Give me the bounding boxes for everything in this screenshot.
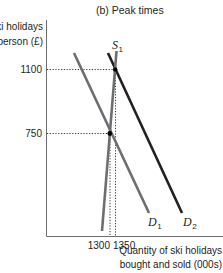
label-d1: D1 bbox=[147, 215, 162, 231]
label-d2: D2 bbox=[182, 215, 197, 231]
x-axis-label: Quantity of ski holidays bought and sold… bbox=[119, 244, 222, 272]
x-axis-label-line-1: Quantity of ski holidays bbox=[119, 244, 222, 258]
equilibrium-point-1100 bbox=[113, 67, 117, 71]
x-axis-label-line-2: bought and sold (000s) bbox=[119, 258, 222, 272]
y-tick-750: 750 bbox=[25, 128, 42, 139]
y-tick-1100: 1100 bbox=[20, 64, 42, 75]
demand-curve-d2 bbox=[108, 53, 182, 213]
equilibrium-point-750 bbox=[107, 131, 112, 136]
label-s1: S1 bbox=[112, 38, 124, 54]
x-tick-1300: 1300 bbox=[88, 240, 111, 251]
chart-plot: 1100 750 1300 1350 S1 D1 D2 bbox=[0, 0, 223, 273]
